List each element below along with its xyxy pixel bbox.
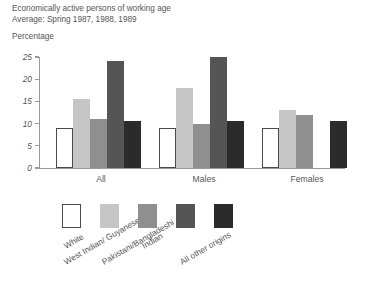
- y-tick-label: 5: [10, 141, 32, 151]
- legend-swatch-indian[interactable]: [138, 204, 157, 228]
- bar-pakistani-bangladeshi: [210, 57, 227, 168]
- bar-west-indian-guyanese: [73, 99, 90, 168]
- bar-series-container: [39, 57, 345, 168]
- legend-swatch-pakistani-bangladeshi[interactable]: [176, 204, 195, 228]
- bar-group: [262, 57, 352, 168]
- bar-indian: [193, 124, 210, 168]
- legend-label-all-other-origins: All other origins: [178, 229, 233, 266]
- bar-white: [262, 128, 279, 168]
- bar-group: [56, 57, 146, 168]
- y-tick-label: 15: [10, 96, 32, 106]
- bar-indian: [90, 119, 107, 168]
- bar-west-indian-guyanese: [279, 110, 296, 168]
- legend-swatch-all-other-origins[interactable]: [214, 204, 233, 228]
- chart-legend: WhiteWest Indian/ GuyaneseIndianPakistan…: [0, 198, 365, 297]
- bar-all-other-origins: [227, 121, 244, 168]
- bar-all-other-origins: [330, 121, 347, 168]
- y-tick-label: 10: [10, 119, 32, 129]
- bar-west-indian-guyanese: [176, 88, 193, 168]
- category-label-all: All: [56, 174, 146, 184]
- y-tick-label: 0: [10, 163, 32, 173]
- bar-group: [159, 57, 249, 168]
- bar-all-other-origins: [124, 121, 141, 168]
- bar-white: [56, 128, 73, 168]
- legend-swatch-white[interactable]: [62, 204, 81, 228]
- bar-indian: [296, 115, 313, 168]
- legend-swatch-west-indian-guyanese[interactable]: [100, 204, 119, 228]
- chart-plot-area: 0510152025 AllMalesFemales: [0, 0, 365, 180]
- bar-pakistani-bangladeshi: [107, 61, 124, 168]
- y-tick-label: 20: [10, 74, 32, 84]
- category-label-females: Females: [262, 174, 352, 184]
- category-label-males: Males: [159, 174, 249, 184]
- y-tick-label: 25: [10, 52, 32, 62]
- bar-white: [159, 128, 176, 168]
